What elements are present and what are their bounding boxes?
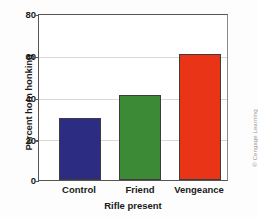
y-tick-label-20: 20 <box>10 136 36 146</box>
y-tickmark-20 <box>35 140 39 141</box>
y-tickmark-60 <box>35 57 39 58</box>
x-axis-title: Rifle present <box>38 200 228 211</box>
bar-friend <box>119 95 161 180</box>
y-tick-label-40: 40 <box>10 94 36 104</box>
y-tick-label-60: 60 <box>10 52 36 62</box>
y-tick-label-0: 0 <box>10 176 36 186</box>
bar-control <box>59 118 101 180</box>
y-tickmark-0 <box>35 181 39 182</box>
plot-area <box>38 14 228 181</box>
x-tick-label-vengeance: Vengeance <box>158 184 240 195</box>
y-tick-label-80: 80 <box>10 10 36 20</box>
chart-figure: Percent horn honking 80 60 40 20 0 Contr… <box>0 0 258 217</box>
bar-vengeance <box>179 54 221 180</box>
y-tickmark-40 <box>35 99 39 100</box>
copyright-credit: © Cengage Learning <box>252 78 258 198</box>
y-tickmark-80 <box>35 15 39 16</box>
